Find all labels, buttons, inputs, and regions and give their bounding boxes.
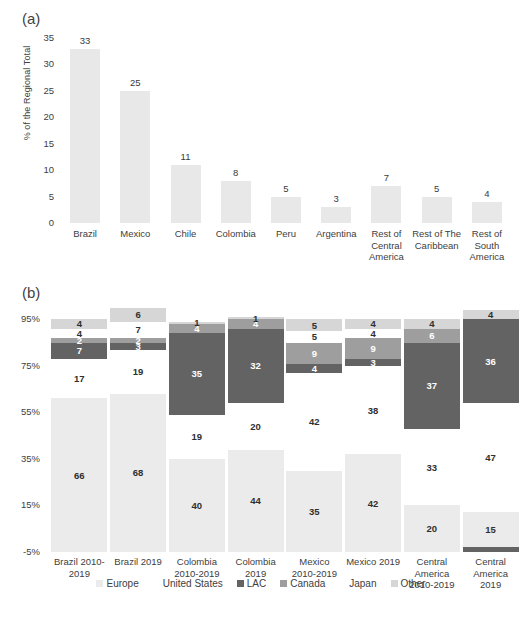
panel-b-segment-value-label: 6 [429,330,434,341]
panel-b-segment-value-label: 42 [368,498,379,509]
panel-b-segment-value-label: 32 [250,360,261,371]
panel-b-segment[interactable]: 1 [228,317,284,319]
legend-label: United States [163,578,223,589]
panel-a-bar[interactable] [120,91,150,223]
legend-item[interactable]: Japan [339,578,376,589]
legend-swatch-icon [339,580,346,587]
panel-a-bar[interactable] [321,207,351,223]
panel-a-bar[interactable] [171,165,201,223]
legend-item[interactable]: LAC [237,578,266,589]
panel-b-segment[interactable]: 4 [286,364,342,373]
legend-label: Japan [349,578,376,589]
panel-b-category-label: Mexico 2019 [344,556,403,568]
panel-b-segment[interactable]: 5 [286,331,342,343]
panel-b-segment[interactable]: 68 [110,394,166,552]
panel-b-segment[interactable]: 33 [404,429,460,506]
panel-b-category-line: Central [403,556,462,568]
panel-b-segment[interactable]: 40 [169,459,225,552]
panel-a-bar[interactable] [472,202,502,223]
panel-b-segment[interactable]: 6 [110,308,166,322]
panel-b-segment[interactable]: 2 [110,338,166,343]
panel-a-bar-chart: (a) % of the Regional Total 353025201510… [0,0,522,282]
legend-item[interactable]: Europe [96,578,138,589]
panel-a-bar-slot: 5 [412,38,462,223]
panel-a-category-line: Colombia [211,228,261,240]
panel-a-bar-value-label: 8 [233,167,238,178]
panel-a-category-line: America [361,251,411,263]
panel-b-segment[interactable]: 5 [286,319,342,331]
panel-b-segment-value-label: 42 [309,416,320,427]
panel-b-segment[interactable]: 19 [169,415,225,459]
panel-a-y-tick: 5 [28,191,54,202]
panel-a-bar-slot: 11 [160,38,210,223]
panel-b-segment[interactable]: 19 [110,350,166,394]
panel-b-segment[interactable]: 6 [404,329,460,343]
panel-b-segment[interactable]: 4 [51,319,107,328]
panel-a-bar[interactable] [271,197,301,223]
panel-b-segment[interactable]: 4 [463,310,519,319]
panel-b-segment[interactable]: 1 [169,322,225,324]
legend-swatch-icon [280,580,287,587]
panel-b-segment[interactable]: 15 [463,512,519,547]
panel-a-bar-slot: 4 [462,38,512,223]
panel-a-category-label: Colombia [211,228,261,240]
panel-b-segment[interactable]: 4 [345,319,401,328]
panel-b-segment[interactable]: 4 [51,329,107,338]
panel-b-segment-value-label: 4 [77,318,82,329]
panel-a-bar-value-label: 5 [283,183,288,194]
legend-item[interactable]: Canada [280,578,325,589]
panel-a-bar[interactable] [70,49,100,223]
panel-b-segment-value-label: 66 [74,470,85,481]
panel-a-category-line: Rest of The [412,228,462,240]
panel-b-y-tick: 95% [8,313,40,324]
panel-b-segment-value-label: 7 [135,324,140,335]
panel-b-segment[interactable]: 4 [345,329,401,338]
panel-b-segment[interactable]: 17 [51,359,107,399]
panel-b-segment[interactable]: 66 [51,398,107,552]
panel-a-category-line: Central [361,240,411,252]
panel-b-segment[interactable]: 9 [345,338,401,359]
panel-b-segment-value-label: 7 [77,345,82,356]
panel-b-segment[interactable]: 20 [228,403,284,450]
panel-b-category-line: Brazil 2010- [50,556,109,568]
panel-b-segment[interactable]: 4 [404,319,460,328]
panel-b-segment[interactable] [463,547,519,552]
panel-b-segment[interactable]: 37 [404,343,460,429]
panel-a-tag: (a) [22,10,40,27]
panel-b-category-line: 2019 [50,568,109,580]
panel-a-category-label: Peru [261,228,311,240]
panel-b-category-line: 2010-2019 [285,568,344,580]
panel-a-bar-slot: 3 [311,38,361,223]
panel-a-category-line: Rest of [462,228,512,240]
panel-b-segment[interactable]: 3 [345,359,401,366]
panel-a-category-line: Caribbean [412,240,462,252]
panel-a-bar[interactable] [422,197,452,223]
panel-b-stack: 44203241 [228,296,284,552]
panel-b-category-line: Brazil 2019 [109,556,168,568]
panel-b-segment[interactable]: 35 [286,471,342,552]
panel-b-segment-value-label: 20 [427,523,438,534]
panel-a-bar[interactable] [371,186,401,223]
panel-b-category-line: Colombia [226,556,285,568]
panel-b-segment[interactable]: 35 [169,333,225,414]
panel-b-segment-value-label: 35 [192,368,203,379]
panel-b-segment[interactable]: 20 [404,505,460,552]
panel-b-segment[interactable]: 42 [345,454,401,552]
panel-b-segment[interactable]: 36 [463,319,519,403]
panel-b-category-line: Mexico [285,556,344,568]
panel-b-segment[interactable]: 47 [463,403,519,512]
panel-b-segment[interactable]: 7 [110,322,166,338]
panel-b-segment-value-label: 17 [74,373,85,384]
panel-b-segment[interactable]: 44 [228,450,284,552]
panel-a-bar[interactable] [221,181,251,223]
panel-b-segment[interactable]: 9 [286,343,342,364]
panel-a-plot-area: 332511853754 [60,38,512,223]
panel-b-column: 44203241 [226,296,285,552]
panel-b-segment-value-label: 35 [309,506,320,517]
panel-b-segment[interactable]: 38 [345,366,401,454]
panel-b-column: 20333764 [403,296,462,552]
legend-item[interactable]: United States [153,578,223,589]
panel-b-segment[interactable]: 42 [286,373,342,471]
panel-b-stacked-bar-chart: (b) -5%15%35%55%75%95% 66177244681932764… [0,282,522,622]
panel-b-segment[interactable]: 32 [228,329,284,403]
